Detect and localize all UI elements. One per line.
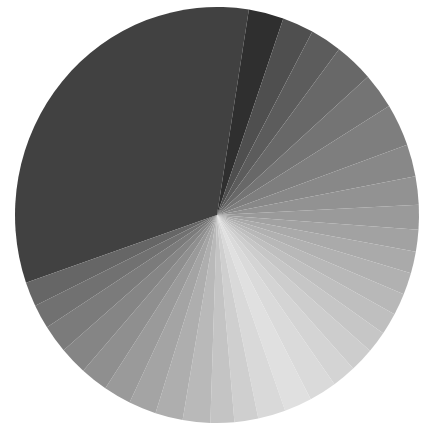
pie-slices xyxy=(15,7,419,423)
pie-chart xyxy=(0,0,431,442)
